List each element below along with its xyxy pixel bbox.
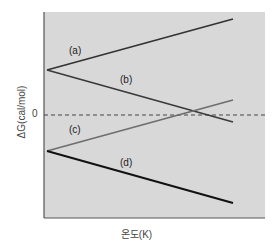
label-a: (a) (69, 45, 81, 56)
x-axis-label: 온도(K) (0, 226, 273, 241)
label-c: (c) (69, 124, 81, 135)
label-d: (d) (120, 157, 132, 168)
chart: ΔG(cal/mol) 0 온도(K) (a) (b) (c) (d) (0, 0, 273, 250)
plot-svg (0, 0, 273, 250)
label-b: (b) (120, 74, 132, 85)
plot-area (44, 12, 265, 218)
y-tick-zero: 0 (32, 108, 38, 119)
y-axis-label: ΔG(cal/mol) (16, 67, 30, 157)
